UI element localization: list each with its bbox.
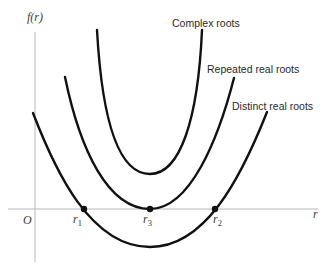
- y-axis-label: f(r): [27, 10, 43, 24]
- label-complex-roots: Complex roots: [172, 17, 240, 29]
- root-point-r1: [81, 206, 87, 212]
- root-label-r1: r1: [73, 212, 82, 228]
- root-label-r3: r3: [143, 212, 152, 228]
- root-point-r3: [147, 206, 153, 212]
- x-axis-label: r: [313, 207, 318, 221]
- label-repeated-roots: Repeated real roots: [207, 63, 299, 75]
- curve-repeated-roots: [65, 77, 234, 209]
- origin-label: O: [23, 213, 32, 227]
- curve-complex-roots: [97, 30, 202, 174]
- root-label-r2: r2: [213, 212, 222, 228]
- roots-diagram: f(r) r O r1 r3 r2 Complex roots Repeated…: [0, 0, 326, 273]
- label-distinct-roots: Distinct real roots: [232, 100, 313, 112]
